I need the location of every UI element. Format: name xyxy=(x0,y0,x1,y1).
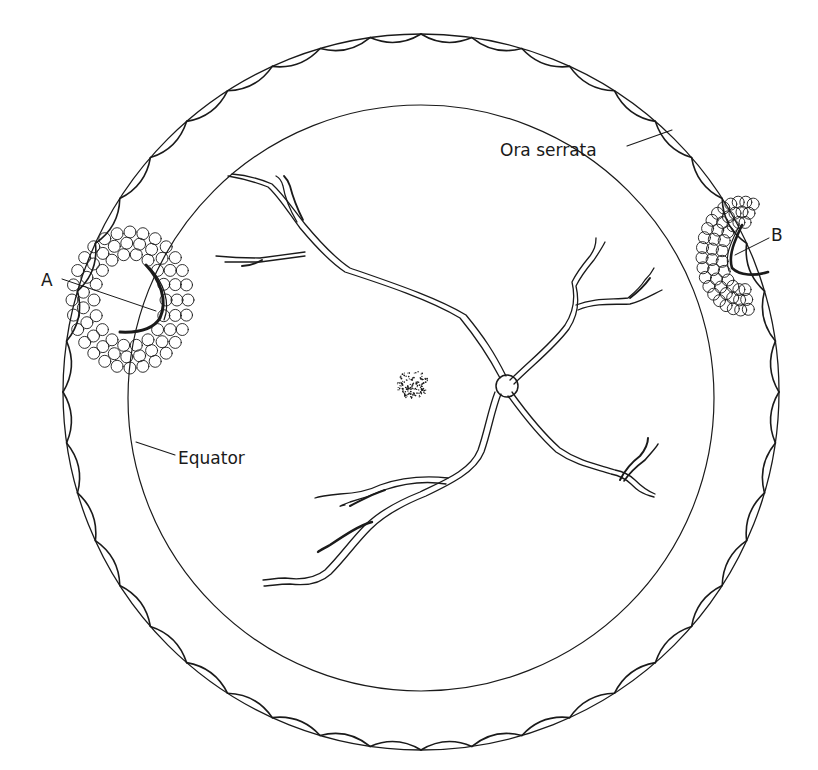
equator-leader xyxy=(136,442,175,455)
label-a: A xyxy=(41,270,53,290)
retinal-vessels xyxy=(216,174,662,586)
macula xyxy=(397,371,428,399)
lesion-b-leader xyxy=(735,238,769,255)
laser-spots-a xyxy=(66,226,194,374)
label-b: B xyxy=(771,225,783,245)
optic-disc xyxy=(496,375,518,397)
label-equator: Equator xyxy=(178,448,245,468)
equator-circle xyxy=(128,105,714,691)
ora-serrata-leader xyxy=(627,130,672,146)
label-ora-serrata: Ora serrata xyxy=(500,140,597,160)
lesion-a xyxy=(120,265,167,332)
retina-fundus-diagram: Ora serrata Equator A B xyxy=(0,0,818,770)
